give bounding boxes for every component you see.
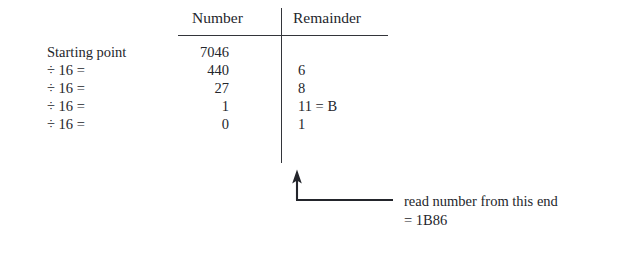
column-header-number: Number: [192, 10, 243, 26]
row-label: ÷ 16 =: [47, 61, 85, 79]
row-number: 1: [160, 97, 229, 115]
row-label: Starting point: [47, 43, 126, 61]
row-remainder: 6: [298, 61, 305, 79]
row-remainder: 11 = B: [298, 97, 337, 115]
table-row: ÷ 16 = 0 1: [0, 115, 630, 133]
annotation-line-2: = 1B86: [404, 211, 447, 229]
column-header-remainder: Remainder: [293, 10, 361, 26]
row-number: 27: [160, 79, 229, 97]
row-label: ÷ 16 =: [47, 79, 85, 97]
up-arrow-leader-icon: [285, 168, 400, 206]
row-remainder: 1: [298, 115, 305, 133]
annotation-line-1: read number from this end: [404, 192, 558, 210]
row-remainder: 8: [298, 79, 305, 97]
row-number: 0: [160, 115, 229, 133]
row-label: ÷ 16 =: [47, 115, 85, 133]
row-label: ÷ 16 =: [47, 97, 85, 115]
table-row: ÷ 16 = 440 6: [0, 61, 630, 79]
table-row: ÷ 16 = 1 11 = B: [0, 97, 630, 115]
header-horizontal-rule: [178, 35, 388, 36]
diagram-canvas: Number Remainder Starting point 7046 ÷ 1…: [0, 0, 630, 261]
table-row: ÷ 16 = 27 8: [0, 79, 630, 97]
table-row: Starting point 7046: [0, 43, 630, 61]
row-number: 440: [160, 61, 229, 79]
row-number: 7046: [160, 43, 229, 61]
